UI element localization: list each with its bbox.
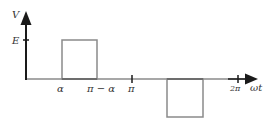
two-pi-label: 2π bbox=[229, 84, 241, 93]
quasi-square-waveform-diagram: V E α π − α π 2π ωt bbox=[0, 0, 276, 126]
x-axis-label: ωt bbox=[250, 82, 263, 93]
pi-label: π bbox=[127, 83, 135, 94]
pi-minus-alpha-label: π − α bbox=[86, 83, 115, 94]
y-axis-arrow-icon bbox=[21, 11, 32, 25]
y-axis-label: V bbox=[12, 9, 21, 20]
e-level-label: E bbox=[11, 35, 20, 46]
alpha-label: α bbox=[57, 83, 64, 94]
y-axis bbox=[21, 11, 32, 80]
negative-pulse bbox=[167, 79, 203, 117]
positive-pulse bbox=[62, 40, 97, 79]
